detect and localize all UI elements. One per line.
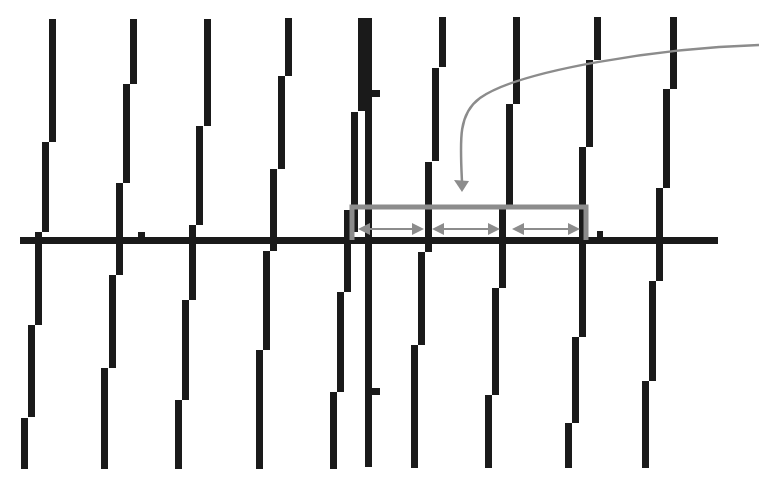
bar-segment — [432, 68, 439, 161]
axis-line — [20, 237, 718, 244]
arrow-head-right — [568, 223, 580, 235]
bar-segment — [492, 288, 499, 395]
bar-segment — [506, 104, 513, 207]
thick-bar-block — [358, 18, 372, 111]
double-arrow-icon — [432, 223, 500, 235]
bar-segment — [572, 337, 579, 423]
bar-segment — [123, 84, 130, 183]
bar-segment — [337, 292, 344, 392]
arrow-head-left — [358, 223, 370, 235]
arrow-head-left — [512, 223, 524, 235]
bar-segment — [189, 225, 196, 300]
bracket-outline — [352, 207, 586, 240]
bar-segment — [499, 207, 506, 288]
bar-segment — [21, 418, 28, 469]
bar-segment — [649, 281, 656, 381]
bar-segment — [411, 345, 418, 468]
bar-segment — [663, 89, 670, 188]
pointer-curve-arrow-icon — [454, 45, 759, 192]
bar-segment — [101, 368, 108, 469]
bar-segment — [204, 19, 211, 126]
curve-path — [461, 45, 759, 182]
bar-tab — [372, 388, 380, 395]
bar-segment — [130, 19, 137, 84]
bar-segment — [642, 381, 649, 468]
bar-segment — [28, 325, 35, 417]
bar-segment — [49, 19, 56, 142]
bar-segment — [285, 18, 292, 76]
arrow-head-right — [412, 223, 424, 235]
bar-segment — [670, 17, 677, 89]
bar-segment — [485, 395, 492, 468]
bar-segment — [513, 17, 520, 104]
bar-segment — [330, 392, 337, 469]
bar-segment — [116, 183, 123, 275]
bar-tab — [597, 231, 603, 238]
bar-segment — [439, 17, 446, 67]
interval-double-arrows — [358, 223, 580, 235]
bar-segment — [418, 252, 425, 345]
highlighted-thick-bar — [358, 18, 372, 111]
double-arrow-icon — [358, 223, 424, 235]
double-arrow-icon — [512, 223, 580, 235]
bar-segment — [196, 126, 203, 225]
arrow-head-right — [488, 223, 500, 235]
spacing-bracket — [352, 207, 586, 240]
bar-segment — [109, 275, 116, 368]
bar-segment — [656, 188, 663, 281]
bar-segment — [586, 60, 593, 147]
bar-segment — [278, 76, 285, 169]
bar-segment — [35, 244, 42, 325]
bar-segment — [594, 17, 601, 60]
bar-segment — [182, 300, 189, 400]
arrow-head-left — [432, 223, 444, 235]
bar-segment — [175, 400, 182, 469]
stepped-bars-diagram — [0, 0, 759, 481]
bar-segment — [256, 350, 263, 469]
bar-tab — [372, 90, 380, 97]
bar-segment — [42, 142, 49, 232]
diagram-canvas — [0, 0, 759, 481]
horizontal-axis — [20, 237, 718, 244]
curve-arrowhead — [454, 180, 469, 192]
bar-segment — [565, 423, 572, 468]
bar-segment — [263, 251, 270, 350]
